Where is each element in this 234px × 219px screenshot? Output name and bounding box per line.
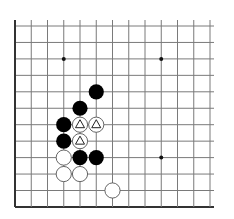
white-stone-disc <box>72 166 87 181</box>
star-point <box>159 156 163 160</box>
white-stone[interactable] <box>56 150 71 165</box>
white-stone[interactable] <box>89 117 104 132</box>
black-stone[interactable] <box>56 134 71 149</box>
white-stone[interactable] <box>105 183 120 198</box>
white-stone[interactable] <box>72 117 87 132</box>
white-stone[interactable] <box>56 166 71 181</box>
white-stone-disc <box>56 150 71 165</box>
black-stone-disc <box>89 150 104 165</box>
white-stone[interactable] <box>72 134 87 149</box>
black-stone[interactable] <box>89 150 104 165</box>
black-stone[interactable] <box>72 101 87 116</box>
white-stone-disc <box>56 166 71 181</box>
black-stone[interactable] <box>56 117 71 132</box>
white-stone[interactable] <box>72 166 87 181</box>
go-board[interactable] <box>0 0 234 219</box>
black-stone-disc <box>56 117 71 132</box>
black-stone-disc <box>89 84 104 99</box>
black-stone-disc <box>72 150 87 165</box>
white-stone-disc <box>105 183 120 198</box>
black-stone-disc <box>56 134 71 149</box>
black-stone-disc <box>72 101 87 116</box>
star-point <box>62 57 66 61</box>
board-grid <box>15 20 214 207</box>
black-stone[interactable] <box>72 150 87 165</box>
black-stone[interactable] <box>89 84 104 99</box>
star-point <box>159 57 163 61</box>
